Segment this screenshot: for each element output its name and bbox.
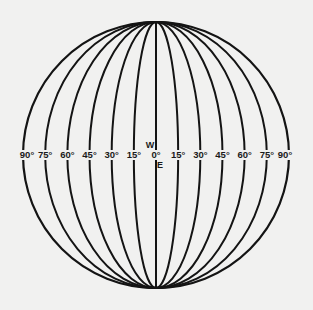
label-center-0: 0° (150, 150, 161, 160)
label-west-15: 15° (126, 150, 142, 160)
label-west-30: 30° (103, 150, 119, 160)
label-west-75: 75° (37, 150, 53, 160)
label-east-15: 15° (170, 150, 186, 160)
west-marker: W (146, 141, 155, 150)
label-west-90: 90° (19, 150, 35, 160)
label-east-75: 75° (259, 150, 275, 160)
east-marker: E (157, 161, 163, 170)
label-east-90: 90° (277, 150, 293, 160)
label-east-60: 60° (236, 150, 252, 160)
label-east-30: 30° (192, 150, 208, 160)
label-east-45: 45° (214, 150, 230, 160)
label-west-45: 45° (81, 150, 97, 160)
label-west-60: 60° (59, 150, 75, 160)
